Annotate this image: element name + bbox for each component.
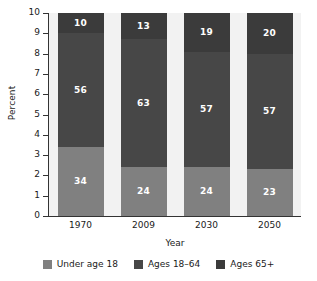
segment-ages-65-plus[interactable]: 13 (121, 13, 167, 39)
bar-value-label: 24 (137, 187, 150, 196)
y-axis-tick (43, 196, 48, 197)
y-axis-tick-label: 0 (10, 211, 40, 220)
bar-value-label: 24 (200, 187, 213, 196)
bar-value-label: 13 (137, 22, 150, 31)
x-axis-tick-label-2030: 2030 (177, 220, 237, 230)
legend-swatch-icon (43, 260, 52, 269)
y-axis-tick-label: 3 (10, 150, 40, 159)
legend-item-1[interactable]: Ages 18–64 (134, 259, 200, 269)
bar-2030[interactable]: 195724 (184, 13, 230, 216)
bar-1970[interactable]: 105634 (58, 13, 104, 216)
y-axis-tick (43, 155, 48, 156)
bar-value-label: 56 (74, 86, 87, 95)
y-axis-tick-label: 6 (10, 89, 40, 98)
segment-ages-18-64[interactable]: 63 (121, 39, 167, 167)
legend-swatch-icon (216, 260, 225, 269)
segment-under-18[interactable]: 24 (184, 167, 230, 216)
y-axis-tick-label: 9 (10, 28, 40, 37)
y-axis-tick (43, 33, 48, 34)
legend-label: Under age 18 (57, 259, 118, 269)
bar-value-label: 63 (137, 99, 150, 108)
y-axis-tick (43, 74, 48, 75)
bar-value-label: 23 (263, 188, 276, 197)
segment-under-18[interactable]: 34 (58, 147, 104, 216)
legend-swatch-icon (134, 260, 143, 269)
x-axis-tick-label-2009: 2009 (114, 220, 174, 230)
y-axis-tick-label: 10 (10, 8, 40, 17)
segment-ages-18-64[interactable]: 57 (247, 54, 293, 170)
legend-label: Ages 18–64 (148, 259, 200, 269)
y-axis-tick-label: 7 (10, 69, 40, 78)
y-axis-tick (43, 94, 48, 95)
bar-value-label: 19 (200, 28, 213, 37)
x-axis-line (48, 216, 301, 217)
segment-under-18[interactable]: 23 (247, 169, 293, 216)
y-axis-tick (43, 54, 48, 55)
x-axis-tick-label-1970: 1970 (51, 220, 111, 230)
segment-ages-65-plus[interactable]: 10 (58, 13, 104, 33)
bar-value-label: 10 (74, 19, 87, 28)
x-axis-title: Year (49, 238, 301, 248)
y-axis-tick-label: 8 (10, 49, 40, 58)
y-axis-tick-label: 5 (10, 110, 40, 119)
legend-label: Ages 65+ (230, 259, 274, 269)
bar-2050[interactable]: 205723 (247, 13, 293, 216)
chart-figure: Percent 109876543210 1056341363241957242… (0, 0, 317, 281)
segment-ages-65-plus[interactable]: 20 (247, 13, 293, 54)
y-axis-tick-label: 2 (10, 170, 40, 179)
segment-ages-18-64[interactable]: 57 (184, 52, 230, 168)
plot-area: 105634136324195724205723 (49, 13, 301, 216)
y-axis-tick (43, 175, 48, 176)
legend-item-2[interactable]: Ages 65+ (216, 259, 274, 269)
y-axis-tick (43, 115, 48, 116)
y-axis-title: Percent (7, 68, 17, 138)
bar-value-label: 20 (263, 29, 276, 38)
y-axis-tick (43, 216, 48, 217)
y-axis-tick-label: 1 (10, 191, 40, 200)
segment-under-18[interactable]: 24 (121, 167, 167, 216)
segment-ages-18-64[interactable]: 56 (58, 33, 104, 147)
bars-container: 105634136324195724205723 (49, 13, 301, 216)
y-axis-tick (43, 135, 48, 136)
bar-value-label: 57 (263, 107, 276, 116)
chart-legend: Under age 18Ages 18–64Ages 65+ (0, 259, 317, 269)
x-axis-tick-label-2050: 2050 (240, 220, 300, 230)
y-axis-tick (43, 13, 48, 14)
segment-ages-65-plus[interactable]: 19 (184, 13, 230, 52)
bar-value-label: 34 (74, 177, 87, 186)
legend-item-0[interactable]: Under age 18 (43, 259, 118, 269)
y-axis-tick-label: 4 (10, 130, 40, 139)
bar-value-label: 57 (200, 105, 213, 114)
bar-2009[interactable]: 136324 (121, 13, 167, 216)
